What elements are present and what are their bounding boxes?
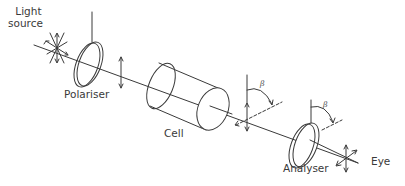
- rotated-polarisation-arrows: [235, 75, 282, 131]
- polariser-icon: [69, 12, 108, 90]
- beta-angle-label-analyser: β: [323, 100, 328, 109]
- analyser-icon: [284, 100, 358, 171]
- output-polarisation-arrows: [336, 145, 357, 172]
- analyser-label: Analyser: [283, 163, 329, 175]
- light-source-label-line2: source: [8, 18, 43, 30]
- polariser-label: Polariser: [64, 89, 109, 101]
- eye-label: Eye: [371, 156, 390, 168]
- diagram-drawing: [0, 0, 405, 186]
- cell-label: Cell: [164, 128, 184, 140]
- beta-angle-label-cell: β: [260, 79, 265, 88]
- light-source-icon: [44, 33, 68, 63]
- polarimeter-diagram: Light source Polariser Cell Analyser Eye…: [0, 0, 405, 186]
- light-source-label-line1: Light: [14, 6, 43, 18]
- light-source-label: Light source: [14, 6, 43, 29]
- cell-icon: [141, 59, 235, 135]
- vertical-polarisation-arrow: [119, 57, 123, 88]
